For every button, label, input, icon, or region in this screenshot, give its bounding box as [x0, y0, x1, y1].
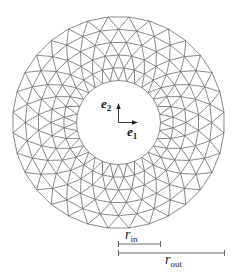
r-out-dimension	[119, 250, 225, 256]
annulus-mesh-figure: e1 e2 rin rout	[0, 0, 235, 278]
e2-label: e2	[101, 96, 112, 113]
r-in-label: rin	[125, 227, 138, 244]
e1-label: e1	[127, 124, 138, 141]
basis-vectors: e1 e2	[101, 96, 138, 141]
r-out-label: rout	[165, 252, 182, 269]
